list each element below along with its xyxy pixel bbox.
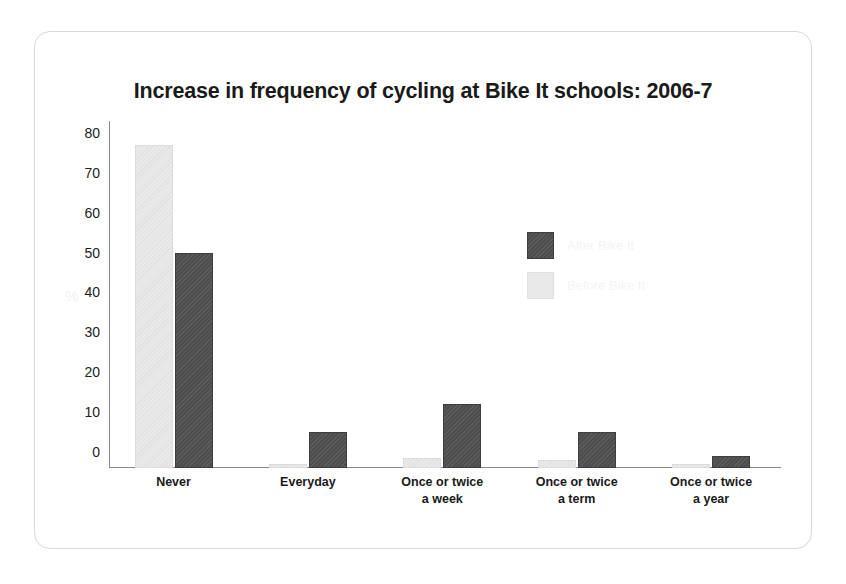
plot-area: % 01020304050607080 NeverEverydayOnce or… bbox=[109, 121, 781, 468]
legend-swatch-before bbox=[527, 272, 554, 299]
y-axis-title: % bbox=[65, 286, 78, 303]
y-tick-label: 80 bbox=[84, 125, 100, 141]
y-tick-label: 60 bbox=[84, 205, 100, 221]
x-category-label-line1: Never bbox=[156, 475, 191, 489]
bar bbox=[672, 464, 710, 468]
x-category-label-line1: Everyday bbox=[280, 475, 336, 489]
x-category-label-line1: Once or twice bbox=[536, 475, 618, 489]
legend-label: Before Bike It bbox=[567, 278, 645, 293]
bar bbox=[712, 456, 750, 468]
y-tick-label: 10 bbox=[84, 404, 100, 420]
chart-title: Increase in frequency of cycling at Bike… bbox=[35, 79, 811, 104]
y-tick-label: 20 bbox=[84, 364, 100, 380]
x-category-label: Once or twicea year bbox=[641, 474, 781, 508]
x-category-label-line1: Once or twice bbox=[401, 475, 483, 489]
legend-swatch-after bbox=[527, 232, 554, 259]
y-tick-label: 70 bbox=[84, 165, 100, 181]
x-category-label: Never bbox=[104, 474, 244, 491]
slide-frame: Increase in frequency of cycling at Bike… bbox=[34, 31, 812, 549]
x-category-label-line2: a term bbox=[507, 491, 647, 508]
y-tick-label: 50 bbox=[84, 245, 100, 261]
legend-label: After Bike It bbox=[567, 238, 634, 253]
x-category-label-line2: a week bbox=[372, 491, 512, 508]
x-category-label-line2: a year bbox=[641, 491, 781, 508]
x-category-label: Everyday bbox=[238, 474, 378, 491]
y-tick-label: 0 bbox=[92, 444, 100, 460]
y-tick-label: 40 bbox=[84, 284, 100, 300]
bar-group bbox=[109, 121, 781, 468]
x-category-label: Once or twicea week bbox=[372, 474, 512, 508]
x-category-label-line1: Once or twice bbox=[670, 475, 752, 489]
y-tick-label: 30 bbox=[84, 324, 100, 340]
x-category-label: Once or twicea term bbox=[507, 474, 647, 508]
